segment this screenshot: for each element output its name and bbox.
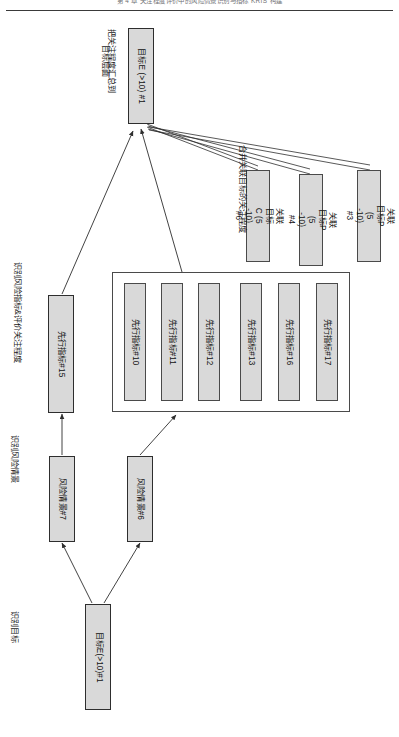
header-rule bbox=[6, 10, 393, 11]
node-leading-indicator-16[interactable]: 先行指标#16 bbox=[278, 283, 300, 401]
node-objective-bottom[interactable]: 目标E(>10)#1 bbox=[85, 604, 111, 710]
node-related-objective-3[interactable]: 关联目标P (5 -10) #3 bbox=[357, 170, 381, 262]
node-risk-scenario-6[interactable]: 风险情景#6 bbox=[127, 456, 153, 542]
node-leading-indicator-12[interactable]: 先行指标#12 bbox=[198, 283, 220, 401]
page-header: 第 4 章 关注程度评价中的风险情景识别与指标 KRIS 构建 bbox=[0, 0, 399, 12]
node-leading-indicator-11[interactable]: 先行指标#11 bbox=[161, 283, 183, 401]
node-leading-indicator-17[interactable]: 先行指标#17 bbox=[316, 283, 338, 401]
indicator-group-frame bbox=[112, 272, 350, 412]
phase-label-merge-related: 合并关联目标的关注程度 bbox=[192, 184, 292, 200]
phase-label-identify-objective: 识别目标 bbox=[6, 614, 22, 684]
phase-label-rollup-line2: 目标层面 bbox=[79, 56, 131, 72]
node-leading-indicator-10[interactable]: 先行指标#10 bbox=[124, 283, 146, 401]
node-leading-indicator-13[interactable]: 先行指标#13 bbox=[240, 283, 262, 401]
running-head-text: 第 4 章 关注程度评价中的风险情景识别与指标 KRIS 构建 bbox=[0, 0, 399, 5]
node-related-objective-3-label: 关联目标P (5 -10) #3 bbox=[343, 205, 394, 227]
flowchart-figure: 识别目标 识别风险情景 识别风险指标&评价关注程度 合并关联目标的关注程度 把关… bbox=[0, 14, 399, 737]
node-objective-top[interactable]: 目标E (>10) #1 bbox=[128, 28, 154, 124]
node-risk-scenario-7[interactable]: 风险情景#7 bbox=[49, 456, 75, 542]
phase-label-identify-scenario: 识别风险情景 bbox=[0, 454, 49, 470]
phase-label-identify-indicator: 识别风险指标&评价关注程度 bbox=[0, 307, 73, 323]
node-related-objective-2[interactable]: 关联目标P (5 -10) #4 bbox=[299, 174, 323, 266]
node-related-objective-2-label: 关联目标P (5 -10) #4 bbox=[285, 209, 336, 231]
